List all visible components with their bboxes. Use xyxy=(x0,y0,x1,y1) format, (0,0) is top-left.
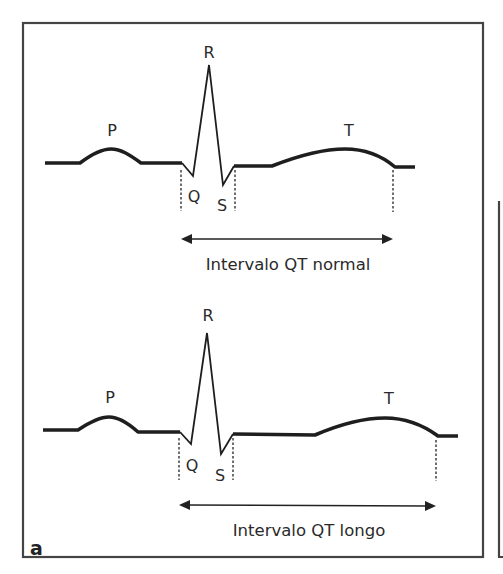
arrowhead-left-icon xyxy=(181,234,192,244)
bottom-qrs-complex xyxy=(180,333,233,454)
top-qt-interval-arrow xyxy=(181,234,393,244)
top-p-wave-segment xyxy=(45,149,182,163)
bottom-ecg-trace: P R Q S T Intervalo QT longo xyxy=(43,306,458,540)
bottom-p-label: P xyxy=(105,388,115,407)
top-ecg-trace: P R Q S T Intervalo QT normal xyxy=(45,43,415,274)
ecg-qt-diagram: P R Q S T Intervalo QT normal P R Q S T … xyxy=(0,0,503,574)
bottom-qt-interval-arrow xyxy=(179,500,436,511)
arrowhead-left-icon xyxy=(179,500,190,510)
bottom-q-label: Q xyxy=(186,456,199,475)
top-r-label: R xyxy=(203,43,214,62)
bottom-s-label: S xyxy=(215,466,225,485)
panel-frame xyxy=(23,23,483,557)
top-qrs-complex xyxy=(182,65,234,185)
panel-letter: a xyxy=(30,537,43,559)
top-t-label: T xyxy=(343,121,354,140)
top-p-label: P xyxy=(107,121,117,140)
bottom-t-label: T xyxy=(383,389,394,408)
bottom-r-label: R xyxy=(202,306,213,325)
arrowhead-right-icon xyxy=(382,234,393,244)
top-s-label: S xyxy=(217,196,227,215)
top-t-wave-segment xyxy=(234,149,415,167)
top-q-label: Q xyxy=(188,187,201,206)
arrowhead-right-icon xyxy=(425,501,436,511)
bottom-p-wave-segment xyxy=(43,417,180,432)
bottom-interval-label: Intervalo QT longo xyxy=(233,521,386,540)
top-interval-label: Intervalo QT normal xyxy=(206,255,371,274)
bottom-t-wave-segment xyxy=(233,418,458,436)
adjacent-panel-frame xyxy=(499,201,503,557)
